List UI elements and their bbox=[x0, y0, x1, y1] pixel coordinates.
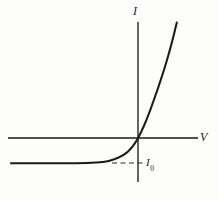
diode-curve bbox=[11, 23, 177, 164]
plot-canvas bbox=[0, 0, 219, 200]
saturation-current-subscript: 0 bbox=[150, 164, 154, 173]
diode-iv-characteristic-figure: I V I0 bbox=[0, 0, 219, 200]
voltage-axis-label: V bbox=[200, 131, 207, 143]
current-axis-label: I bbox=[133, 5, 137, 17]
saturation-current-label: I0 bbox=[146, 157, 153, 171]
